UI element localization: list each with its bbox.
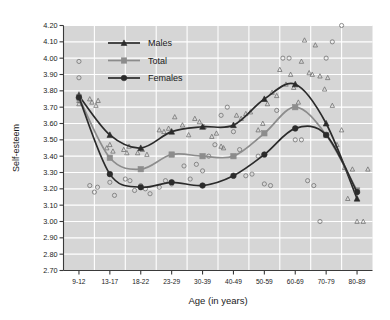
y-axis-tick-label: 3.20: [43, 184, 57, 193]
series-marker: [262, 152, 268, 158]
y-axis-tick-label: 2.90: [43, 233, 57, 242]
x-axis-label: Age (in years): [188, 295, 247, 306]
y-axis-tick-label: 3.60: [43, 119, 57, 128]
series-marker: [354, 189, 360, 195]
x-axis-tick-label: 13-17: [101, 278, 118, 285]
series-marker: [293, 104, 298, 109]
series-marker: [169, 152, 174, 157]
series-marker: [138, 167, 143, 172]
x-axis-tick-label: 9-12: [72, 278, 86, 285]
x-axis-tick-label: 80-89: [349, 278, 366, 285]
series-marker: [107, 171, 113, 177]
y-axis-tick-label: 3.70: [43, 103, 57, 112]
x-axis-tick-label: 70-79: [318, 278, 335, 285]
x-axis-tick-label: 30-39: [194, 278, 211, 285]
y-axis-tick-label: 4.20: [43, 21, 57, 30]
legend-label-total: Total: [148, 56, 167, 66]
x-axis-tick-label: 18-22: [132, 278, 149, 285]
chart-figure: 2.702.802.903.003.103.203.303.403.503.60…: [0, 0, 390, 320]
y-axis-tick-label: 3.10: [43, 201, 57, 210]
x-axis-tick-label: 60-69: [287, 278, 304, 285]
y-axis-tick-label: 2.80: [43, 250, 57, 259]
x-axis-tick-label: 50-59: [256, 278, 273, 285]
series-marker: [107, 155, 112, 160]
series-marker: [200, 153, 205, 158]
series-marker: [262, 131, 267, 136]
y-axis-tick-label: 2.70: [43, 266, 57, 275]
series-marker: [169, 180, 175, 186]
x-axis-tick-label: 40-49: [225, 278, 242, 285]
legend-marker-total: [121, 58, 126, 63]
y-axis-tick-label: 4.10: [43, 37, 57, 46]
series-marker: [200, 183, 206, 189]
y-axis-tick-label: 3.30: [43, 168, 57, 177]
series-marker: [138, 184, 144, 190]
y-axis-tick-label: 3.50: [43, 135, 57, 144]
series-marker: [76, 95, 82, 101]
series-marker: [231, 173, 237, 179]
legend-marker-females: [121, 75, 127, 81]
series-marker: [292, 126, 298, 132]
y-axis-tick-label: 3.90: [43, 70, 57, 79]
y-axis-tick-label: 3.40: [43, 152, 57, 161]
legend-label-males: Males: [148, 38, 173, 48]
x-axis-tick-label: 23-29: [163, 278, 180, 285]
self-esteem-line-chart: 2.702.802.903.003.103.203.303.403.503.60…: [0, 0, 390, 320]
y-axis-label: Self-esteem: [11, 124, 21, 172]
series-marker: [231, 153, 236, 158]
legend-label-females: Females: [148, 73, 183, 83]
series-marker: [323, 132, 329, 138]
y-axis-tick-label: 4.00: [43, 54, 57, 63]
chart-canvas: 2.702.802.903.003.103.203.303.403.503.60…: [0, 0, 390, 320]
y-axis-tick-label: 3.80: [43, 86, 57, 95]
y-axis-tick-label: 3.00: [43, 217, 57, 226]
